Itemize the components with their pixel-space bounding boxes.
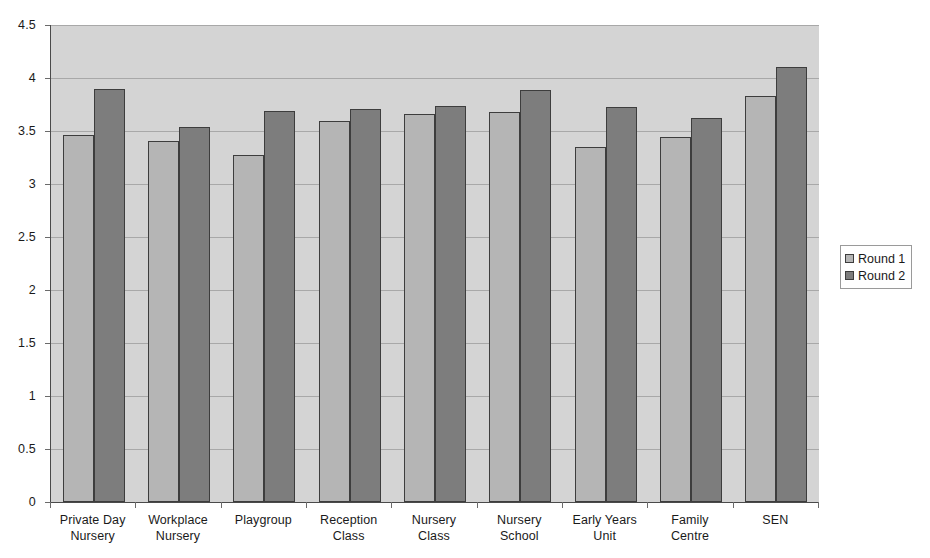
y-tick-label: 3.5 xyxy=(18,124,36,138)
x-tick-mark xyxy=(562,502,563,508)
x-tick-label: Reception Class xyxy=(320,512,377,544)
bar-group xyxy=(233,25,295,502)
x-tick-label: Family Centre xyxy=(671,512,709,544)
x-tick-label: Nursery Class xyxy=(412,512,456,544)
bar xyxy=(148,141,179,502)
bar xyxy=(435,106,466,502)
bar xyxy=(404,114,435,502)
bar xyxy=(575,147,606,502)
bar xyxy=(319,121,350,502)
x-tick-label: Workplace Nursery xyxy=(148,512,208,544)
x-tick-label: Nursery School xyxy=(497,512,541,544)
bars-layer xyxy=(51,25,819,502)
legend-item: Round 1 xyxy=(845,250,905,267)
y-tick-label: 4 xyxy=(29,71,36,85)
bar xyxy=(94,89,125,502)
bar xyxy=(776,67,807,502)
bar xyxy=(264,111,295,502)
bar xyxy=(233,155,264,502)
bar-group xyxy=(404,25,466,502)
x-tick-mark xyxy=(50,502,51,508)
x-tick-mark xyxy=(647,502,648,508)
bar xyxy=(350,109,381,502)
bar xyxy=(179,127,210,502)
x-tick-label: SEN xyxy=(762,512,788,528)
x-tick-mark xyxy=(306,502,307,508)
bar xyxy=(520,90,551,502)
bar xyxy=(745,96,776,502)
bar-group xyxy=(489,25,551,502)
legend-label: Round 2 xyxy=(858,269,905,283)
legend: Round 1Round 2 xyxy=(840,245,912,289)
y-tick-label: 0 xyxy=(29,495,36,509)
y-tick-label: 1.5 xyxy=(18,336,36,350)
bar-group xyxy=(575,25,637,502)
x-tick-label: Playgroup xyxy=(235,512,292,528)
bar-group xyxy=(319,25,381,502)
y-tick-label: 2.5 xyxy=(18,230,36,244)
y-tick-label: 2 xyxy=(29,283,36,297)
bar-group xyxy=(148,25,210,502)
legend-item: Round 2 xyxy=(845,267,905,284)
y-axis: 00.511.522.533.544.5 xyxy=(0,0,44,558)
bar xyxy=(489,112,520,502)
x-tick-label: Early Years Unit xyxy=(572,512,636,544)
x-tick-mark xyxy=(391,502,392,508)
x-tick-label: Private Day Nursery xyxy=(60,512,126,544)
y-tick-label: 4.5 xyxy=(18,18,36,32)
legend-swatch-icon xyxy=(845,271,854,280)
plot-area xyxy=(50,25,819,503)
y-tick-label: 3 xyxy=(29,177,36,191)
y-tick-label: 0.5 xyxy=(18,442,36,456)
bar xyxy=(691,118,722,502)
y-tick-label: 1 xyxy=(29,389,36,403)
bar-group xyxy=(745,25,807,502)
bar xyxy=(660,137,691,502)
bar-chart: 00.511.522.533.544.5 Private Day Nursery… xyxy=(0,0,930,558)
bar-group xyxy=(660,25,722,502)
legend-swatch-icon xyxy=(845,254,854,263)
x-tick-mark xyxy=(221,502,222,508)
x-axis: Private Day NurseryWorkplace NurseryPlay… xyxy=(50,502,818,558)
bar xyxy=(606,107,637,502)
legend-label: Round 1 xyxy=(858,252,905,266)
bar xyxy=(63,135,94,502)
x-tick-mark xyxy=(733,502,734,508)
x-tick-mark xyxy=(477,502,478,508)
x-tick-mark xyxy=(135,502,136,508)
bar-group xyxy=(63,25,125,502)
x-tick-mark xyxy=(818,502,819,508)
